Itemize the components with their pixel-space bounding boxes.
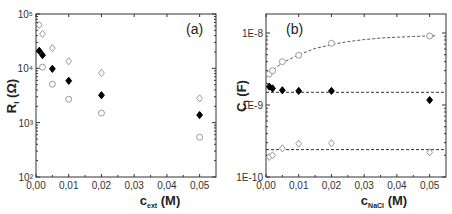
data-point-open-circle xyxy=(40,64,46,70)
x-tick-label: 0,05 xyxy=(420,180,440,191)
data-point-open-diamond xyxy=(296,140,302,147)
data-point-open-circle xyxy=(66,96,72,102)
x-tick-label: 0,01 xyxy=(59,180,79,191)
data-point-open-diamond xyxy=(66,58,72,65)
data-point-open-circle xyxy=(296,52,302,58)
data-point-open-diamond xyxy=(279,145,285,152)
data-point-open-circle xyxy=(279,59,285,65)
data-point-open-diamond xyxy=(40,30,46,37)
x-tick-label: 0,04 xyxy=(387,180,407,191)
data-point-filled-diamond xyxy=(279,87,285,94)
y-tick-label: 1E-8 xyxy=(242,28,264,39)
x-tick-label: 0,01 xyxy=(289,180,309,191)
data-point-filled-diamond xyxy=(329,87,335,94)
x-tick-label: 0,05 xyxy=(190,180,210,191)
data-point-open-circle xyxy=(49,81,55,87)
data-point-filled-diamond xyxy=(427,96,433,103)
data-point-open-circle xyxy=(197,134,203,140)
x-tick-label: 0,02 xyxy=(92,180,112,191)
y-tick-label: 10⁵ xyxy=(18,9,33,20)
data-point-filled-diamond xyxy=(99,92,105,99)
panel-label: (a) xyxy=(186,21,203,37)
x-tick-label: 0,02 xyxy=(322,180,342,191)
x-tick-label: 0,03 xyxy=(354,180,374,191)
plot-frame xyxy=(266,14,446,177)
y-tick-label: 1E-10 xyxy=(236,172,263,183)
fit-line-circle-fit-saturating xyxy=(266,36,436,77)
data-point-filled-diamond xyxy=(296,87,302,94)
x-axis-label: cext (M) xyxy=(140,193,180,209)
y-axis-label: CI (F) xyxy=(234,80,251,112)
data-point-filled-diamond xyxy=(49,65,55,72)
data-point-filled-diamond xyxy=(197,111,203,118)
x-tick-label: 0,03 xyxy=(124,180,144,191)
data-point-filled-diamond xyxy=(66,77,72,84)
data-point-open-diamond xyxy=(99,69,105,76)
data-point-open-diamond xyxy=(197,95,203,102)
x-tick-label: 0,04 xyxy=(157,180,177,191)
data-point-open-circle xyxy=(328,40,334,46)
figure: 0,000,010,020,030,040,0510²10³10⁴10⁵(a)R… xyxy=(0,0,452,214)
data-point-open-circle xyxy=(98,110,104,116)
plot-frame xyxy=(36,14,216,177)
data-point-open-circle xyxy=(427,33,433,39)
y-axis-label: RI (Ω) xyxy=(4,79,21,113)
panel-a-chart: 0,000,010,020,030,040,0510²10³10⁴10⁵(a)R… xyxy=(4,9,216,209)
y-tick-label: 10⁴ xyxy=(18,63,33,74)
y-tick-label: 10² xyxy=(19,172,34,183)
panel-label: (b) xyxy=(286,21,303,37)
y-tick-label: 10³ xyxy=(19,118,34,129)
data-point-open-diamond xyxy=(329,140,335,147)
x-axis-label: cNaCl (M) xyxy=(361,193,407,209)
panel-b-chart: 0,000,010,020,030,040,051E-101E-91E-8(b)… xyxy=(234,14,446,209)
data-point-open-diamond xyxy=(49,45,55,52)
data-point-open-circle xyxy=(270,68,276,74)
